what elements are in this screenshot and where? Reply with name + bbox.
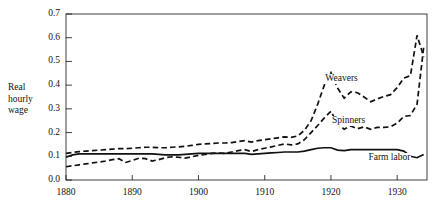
- annotation-weavers: Weavers: [324, 74, 358, 84]
- annotation-farm-labor: Farm labor: [367, 153, 411, 163]
- axis-ticks: [66, 14, 397, 180]
- series-line-weavers: [66, 35, 424, 153]
- plot-area: [0, 0, 444, 222]
- chart-figure: Real hourly wage 0.00.10.20.30.40.50.60.…: [0, 0, 444, 222]
- annotation-spinners: Spinners: [331, 116, 366, 126]
- series-lines: [66, 35, 424, 166]
